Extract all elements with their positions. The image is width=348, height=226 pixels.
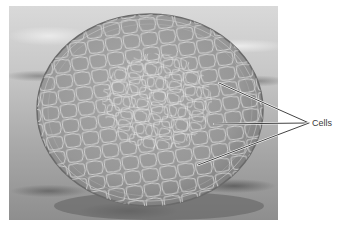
cells-label: Cells bbox=[312, 117, 332, 129]
cell-sphere-graphic bbox=[9, 6, 278, 220]
sem-photo bbox=[9, 6, 278, 220]
micrograph-figure: Cells bbox=[0, 0, 348, 226]
